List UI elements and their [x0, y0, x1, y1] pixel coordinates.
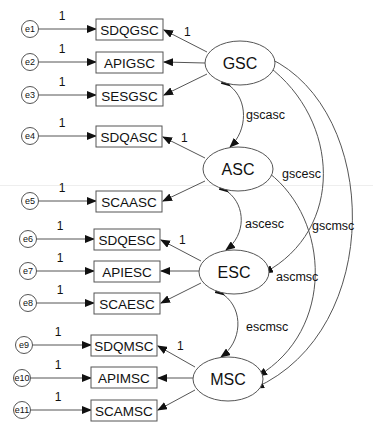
observed-box-sdqmsc[interactable]: SDQMSC — [91, 335, 157, 356]
loading-label-sdqgsc: 1 — [184, 25, 191, 39]
error-label: e3 — [25, 90, 35, 100]
weight-label: 1 — [57, 251, 64, 265]
latent-asc[interactable]: ASC — [203, 147, 273, 191]
svg-text:ascesc: ascesc — [245, 217, 284, 231]
error-term-e3[interactable]: e3 1 — [22, 75, 97, 104]
error-label: e1 — [25, 24, 35, 34]
svg-text:ESC: ESC — [218, 264, 251, 281]
error-label: e9 — [19, 340, 29, 350]
weight-label: 1 — [55, 390, 62, 404]
error-label: e5 — [25, 196, 35, 206]
weight-label: 1 — [55, 325, 62, 339]
error-label: e6 — [23, 234, 33, 244]
error-term-e10[interactable]: e10 1 — [14, 358, 92, 387]
svg-text:GSC: GSC — [223, 55, 258, 72]
svg-text:APIESC: APIESC — [102, 265, 152, 280]
loading-label-sdqasc: 1 — [181, 131, 188, 145]
svg-text:MSC: MSC — [210, 371, 246, 388]
error-term-e8[interactable]: e8 1 — [20, 283, 95, 312]
svg-text:APIGSC: APIGSC — [104, 56, 155, 71]
observed-box-scamsc[interactable]: SCAMSC — [91, 400, 157, 421]
weight-label: 1 — [59, 9, 66, 23]
covariance-gscasc — [230, 86, 244, 147]
weight-label: 1 — [59, 116, 66, 130]
observed-box-apiesc[interactable]: APIESC — [94, 261, 160, 282]
svg-text:ascmsc: ascmsc — [276, 270, 318, 284]
observed-box-scaasc[interactable]: SCAASC — [96, 191, 162, 212]
error-term-e4[interactable]: e4 1 — [22, 116, 97, 145]
svg-text:gscmsc: gscmsc — [312, 219, 354, 233]
svg-text:gscesc: gscesc — [282, 167, 321, 181]
svg-text:escmsc: escmsc — [246, 320, 288, 334]
weight-label: 1 — [57, 219, 64, 233]
sem-path-diagram: e1 1 e2 1 e3 1 e4 1 e5 1 — [0, 0, 373, 439]
weight-label: 1 — [59, 181, 66, 195]
error-label: e10 — [14, 373, 29, 383]
error-label: e7 — [23, 266, 33, 276]
error-label: e11 — [15, 405, 29, 415]
svg-text:SDQMSC: SDQMSC — [94, 339, 154, 354]
observed-box-sdqasc[interactable]: SDQASC — [96, 126, 162, 147]
error-terms: e1 1 e2 1 e3 1 e4 1 e5 1 — [14, 9, 97, 419]
observed-box-sdqgsc[interactable]: SDQGSC — [96, 19, 163, 40]
svg-text:SCAESC: SCAESC — [99, 297, 155, 312]
observed-box-sdqesc[interactable]: SDQESC — [94, 229, 160, 250]
weight-label: 1 — [57, 283, 64, 297]
covariance-escmsc — [221, 295, 238, 357]
error-term-e1[interactable]: e1 1 — [22, 9, 97, 38]
error-term-e7[interactable]: e7 1 — [20, 251, 95, 280]
svg-text:ASC: ASC — [222, 161, 255, 178]
observed-box-sesgsc[interactable]: SESGSC — [96, 85, 163, 106]
weight-label: 1 — [55, 358, 62, 372]
weight-label: 1 — [59, 75, 66, 89]
latent-esc[interactable]: ESC — [199, 250, 269, 294]
weight-label: 1 — [59, 42, 66, 56]
observed-box-apigsc[interactable]: APIGSC — [96, 52, 163, 73]
covariance-ascesc — [226, 192, 241, 250]
error-term-e5[interactable]: e5 1 — [22, 181, 97, 210]
error-term-e6[interactable]: e6 1 — [20, 219, 95, 248]
latent-msc[interactable]: MSC — [193, 357, 263, 401]
svg-text:SDQGSC: SDQGSC — [100, 23, 159, 38]
error-term-e11[interactable]: e11 1 — [14, 390, 92, 419]
covariance-labels: gscasc gscesc gscmsc ascesc ascmsc escms… — [245, 108, 354, 334]
svg-text:APIMSC: APIMSC — [98, 371, 150, 386]
observed-box-apimsc[interactable]: APIMSC — [91, 367, 157, 388]
svg-text:SCAASC: SCAASC — [101, 195, 157, 210]
error-label: e2 — [25, 57, 35, 67]
svg-text:SESGSC: SESGSC — [101, 89, 158, 104]
error-term-e9[interactable]: e9 1 — [16, 325, 92, 354]
factor-loadings — [158, 30, 207, 410]
svg-text:SCAMSC: SCAMSC — [95, 404, 153, 419]
svg-text:SDQESC: SDQESC — [98, 233, 155, 248]
observed-box-scaesc[interactable]: SCAESC — [94, 293, 160, 314]
loading-label-sdqesc: 1 — [179, 233, 186, 247]
observed-variables: SDQGSC APIGSC SESGSC SDQASC SCAASC SDQES… — [91, 19, 163, 421]
error-label: e4 — [25, 131, 35, 141]
error-term-e2[interactable]: e2 1 — [22, 42, 97, 71]
svg-text:SDQASC: SDQASC — [100, 130, 157, 145]
latent-gsc[interactable]: GSC — [205, 41, 275, 85]
loading-label-sdqmsc: 1 — [177, 339, 184, 353]
error-label: e8 — [23, 298, 33, 308]
svg-text:gscasc: gscasc — [246, 108, 285, 122]
